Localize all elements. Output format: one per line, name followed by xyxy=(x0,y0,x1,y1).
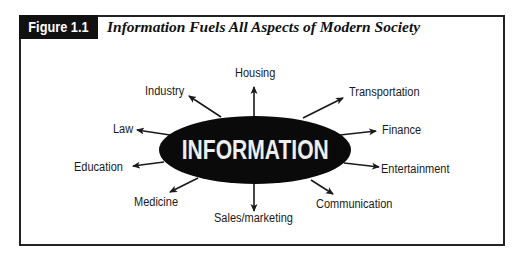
information-diagram xyxy=(0,0,525,265)
node-medicine: Medicine xyxy=(134,195,184,209)
node-transportation: Transportation xyxy=(349,85,429,99)
arrow-medicine xyxy=(170,178,198,192)
node-industry: Industry xyxy=(145,84,189,98)
node-communication: Communication xyxy=(316,197,403,211)
arrow-communication xyxy=(311,180,333,194)
node-housing: Housing xyxy=(235,66,281,80)
node-law: Law xyxy=(113,122,136,136)
center-label: INFORMATION xyxy=(160,135,350,165)
node-education: Education xyxy=(74,160,130,174)
arrow-transportation xyxy=(303,98,343,118)
center-label-text: INFORMATION xyxy=(181,135,328,165)
node-entertainment: Entertainment xyxy=(381,162,459,176)
arrow-industry xyxy=(189,96,221,117)
node-sales-marketing: Sales/marketing xyxy=(214,211,304,225)
node-finance: Finance xyxy=(382,123,426,137)
